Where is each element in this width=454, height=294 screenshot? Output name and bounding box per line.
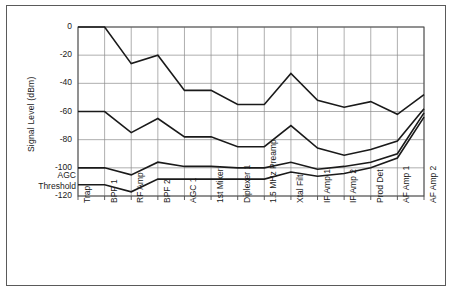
y-axis-title: Signal Level (dBm) [26, 77, 36, 152]
x-tick-label-13: AF Amp 2 [428, 166, 438, 203]
x-tick-label-1: BPF 1 [109, 179, 119, 203]
agc-threshold-annotation-line1: AGC [18, 170, 76, 180]
x-tick-label-3: BPF 2 [162, 179, 172, 203]
agc-threshold-annotation-line2: Threshold [18, 181, 76, 191]
chart-plot-svg [0, 0, 454, 294]
signal-level-chart: Signal Level (dBm) 0-20-40-60-80-100-120… [0, 0, 454, 294]
y-tick-label: -120 [38, 190, 72, 200]
x-tick-label-4: AGC 1 [188, 177, 198, 203]
x-tick-label-2: RF Amp [135, 172, 145, 203]
y-tick-label: -60 [38, 106, 72, 116]
y-tick-label: 0 [38, 21, 72, 31]
x-tick-label-9: IF Amp 1 [322, 169, 332, 203]
x-tick-label-5: 1st Mixer [215, 169, 225, 203]
y-tick-label: -80 [38, 134, 72, 144]
x-tick-label-0: Trap [82, 186, 92, 203]
x-tick-label-8: Xtal Filt [295, 175, 305, 203]
y-tick-label: -40 [38, 77, 72, 87]
series-line-1 [78, 109, 424, 155]
x-tick-label-10: IF Amp 2 [348, 169, 358, 203]
y-tick-label: -20 [38, 49, 72, 59]
x-tick-label-11: Prod Det [375, 169, 385, 203]
x-tick-label-6: Diplexer 1 [242, 165, 252, 203]
screenshot-root: Signal Level (dBm) 0-20-40-60-80-100-120… [0, 0, 454, 294]
series-line-0 [78, 27, 424, 114]
x-tick-label-7: 1.5 MHz Preamp [268, 139, 278, 203]
x-tick-label-12: AF Amp 1 [401, 166, 411, 203]
